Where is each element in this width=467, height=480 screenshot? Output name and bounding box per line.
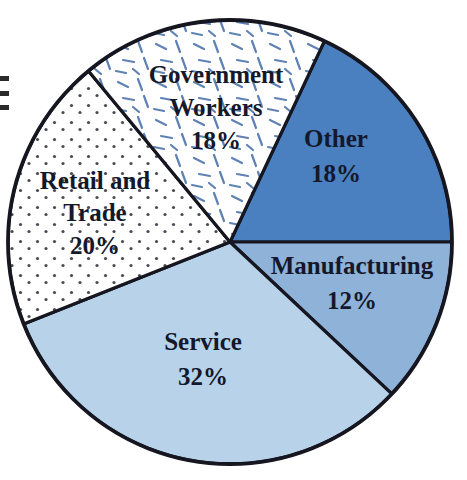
pie-chart-canvas: Other 18% Manufacturing 12% Service 32% … xyxy=(0,0,467,480)
pie-label-manufacturing-name: Manufacturing xyxy=(271,252,434,279)
pie-label-government-workers-name-line2: Workers xyxy=(169,94,262,121)
pie-label-service-name: Service xyxy=(164,328,242,355)
pie-label-service-value: 32% xyxy=(178,363,228,390)
margin-tick-2 xyxy=(0,91,9,96)
margin-tick-3 xyxy=(0,105,9,110)
pie-label-other-value: 18% xyxy=(311,160,361,187)
pie-label-other-name: Other xyxy=(304,125,368,152)
pie-label-manufacturing-value: 12% xyxy=(327,287,377,314)
pie-label-retail-and-trade-name-line1: Retail and xyxy=(40,167,151,194)
pie-label-retail-and-trade-value: 20% xyxy=(70,232,120,259)
pie-label-government-workers-name-line1: Government xyxy=(149,61,284,88)
margin-tick-1 xyxy=(0,76,9,81)
pie-label-government-workers-value: 18% xyxy=(191,127,241,154)
pie-label-retail-and-trade-name-line2: Trade xyxy=(63,199,126,226)
pie-chart-figure: Other 18% Manufacturing 12% Service 32% … xyxy=(0,0,467,480)
page-margin-tick-marks xyxy=(0,76,9,110)
